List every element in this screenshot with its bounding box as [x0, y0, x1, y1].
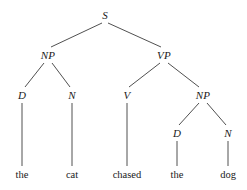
- tree-edge: [52, 63, 70, 87]
- tree-terminal-w-cat: cat: [66, 169, 78, 180]
- tree-terminal-w-chased: chased: [113, 169, 142, 180]
- tree-node-d2: D: [173, 127, 181, 139]
- tree-terminal-w-the1: the: [16, 169, 29, 180]
- tree-node-d1: D: [18, 89, 26, 101]
- tree-edge: [51, 23, 102, 47]
- tree-node-vp: VP: [157, 49, 171, 61]
- tree-node-s: S: [102, 9, 108, 21]
- tree-edge: [108, 23, 161, 47]
- tree-node-np1: NP: [41, 49, 55, 61]
- tree-edge: [25, 63, 44, 87]
- syntax-tree-diagram: SNPVPDNVNPDN thecatchasedthedog: [0, 0, 247, 190]
- tree-terminal-w-dog: dog: [220, 169, 236, 180]
- tree-node-v: V: [124, 89, 131, 101]
- tree-edge: [168, 63, 199, 87]
- tree-node-n1: N: [68, 89, 76, 101]
- tree-terminal-w-the2: the: [171, 169, 184, 180]
- tree-node-n2: N: [224, 127, 232, 139]
- tree-edge: [179, 103, 199, 125]
- tree-edge: [129, 63, 160, 87]
- tree-edge: [207, 103, 226, 125]
- tree-node-np2: NP: [196, 89, 210, 101]
